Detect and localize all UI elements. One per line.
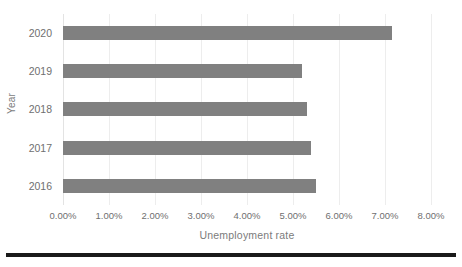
plot-area xyxy=(63,14,431,205)
y-tick-label-2020: 2020 xyxy=(29,14,52,52)
x-tick-label: 0.00% xyxy=(50,210,77,221)
bar-row xyxy=(63,14,431,52)
gridline-8.00% xyxy=(431,14,432,205)
x-tick-label: 5.00% xyxy=(280,210,307,221)
x-tick-label: 7.00% xyxy=(372,210,399,221)
x-axis-title: Unemployment rate xyxy=(63,229,431,241)
bar-2018 xyxy=(63,102,307,116)
x-tick-label: 6.00% xyxy=(326,210,353,221)
bars-layer xyxy=(63,14,431,205)
y-tick-label-2017: 2017 xyxy=(29,129,52,167)
bar-row xyxy=(63,90,431,128)
x-tick-label: 8.00% xyxy=(418,210,445,221)
bar-row xyxy=(63,129,431,167)
bar-2020 xyxy=(63,26,392,40)
x-tick-label: 3.00% xyxy=(188,210,215,221)
unemployment-rate-bar-chart: Year 20202019201820172016 0.00%1.00%2.00… xyxy=(0,0,462,240)
x-tick-label: 4.00% xyxy=(234,210,261,221)
bar-row xyxy=(63,167,431,205)
bar-2017 xyxy=(63,141,311,155)
x-tick-label: 2.00% xyxy=(142,210,169,221)
bar-row xyxy=(63,52,431,90)
y-tick-label-2019: 2019 xyxy=(29,52,52,90)
page-divider-rule xyxy=(6,253,456,257)
x-tick-label: 1.00% xyxy=(96,210,123,221)
y-tick-label-2018: 2018 xyxy=(29,90,52,128)
bar-2016 xyxy=(63,179,316,193)
x-axis-tick-labels: 0.00%1.00%2.00%3.00%4.00%5.00%6.00%7.00%… xyxy=(63,210,431,224)
y-axis-tick-labels: 20202019201820172016 xyxy=(0,14,58,205)
bar-2019 xyxy=(63,64,302,78)
y-tick-label-2016: 2016 xyxy=(29,167,52,205)
